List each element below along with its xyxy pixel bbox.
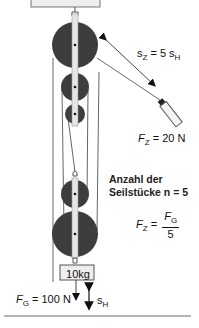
weight-force-label: FG = 100 N [16, 293, 71, 308]
fixed-block-frame [72, 14, 78, 126]
rope-count-label: Anzahl der Seilstücke n = 5 [109, 173, 188, 199]
force-formula: FZ = FG5 [136, 210, 179, 240]
mass-label: 10kg [62, 268, 94, 280]
lift-distance-label: sH [97, 294, 108, 309]
ceiling-mount [31, 0, 100, 7]
pull-force-label: FZ = 20 N [138, 132, 185, 147]
moving-block-frame [72, 178, 78, 258]
pull-distance-label: sZ = 5 sH [137, 47, 180, 62]
spring-scale [157, 98, 182, 127]
